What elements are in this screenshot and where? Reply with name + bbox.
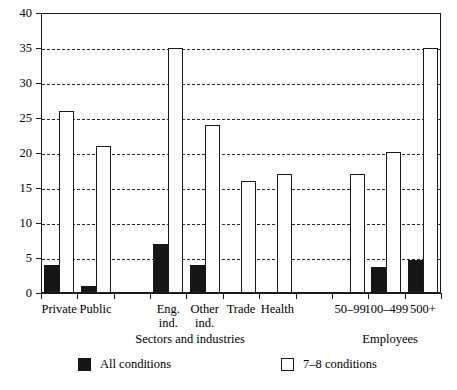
- x-axis-tick-label: 500+: [410, 302, 436, 316]
- chart-figure: 0510152025303540 PrivatePublicEng.ind.Ot…: [0, 0, 457, 390]
- x-axis-tick-label-line: ind.: [190, 316, 218, 330]
- axis-group-title: Employees: [362, 333, 418, 346]
- bars-layer: [41, 13, 441, 293]
- x-axis-tick: [114, 293, 115, 299]
- y-axis-tick: [36, 48, 41, 49]
- x-axis-tick-label-line: Health: [261, 302, 294, 316]
- bar: [59, 111, 74, 293]
- bar: [371, 267, 386, 293]
- bar: [44, 265, 59, 293]
- y-axis-tick-label: 35: [20, 42, 33, 55]
- y-axis-tick-label: 10: [20, 217, 33, 230]
- x-axis-tick: [186, 293, 187, 299]
- x-axis-tick-label-line: Private: [41, 302, 76, 316]
- y-axis-tick: [36, 188, 41, 189]
- x-axis-tick-label-line: Other: [190, 302, 218, 316]
- y-axis-tick-label: 30: [20, 77, 33, 90]
- y-axis-tick-label: 15: [20, 182, 33, 195]
- x-axis-tick-label: 100–499: [365, 302, 409, 316]
- y-axis-tick: [36, 83, 41, 84]
- legend-swatch-dark: [78, 358, 91, 371]
- x-axis-tick-label-line: 50–99: [334, 302, 365, 316]
- y-axis-tick-labels: 0510152025303540: [0, 0, 36, 390]
- x-axis-tick-label: Private: [41, 302, 76, 316]
- x-axis-tick: [41, 293, 42, 299]
- x-axis-tick: [441, 293, 442, 299]
- x-axis-tick-label-line: Public: [80, 302, 112, 316]
- chart-legend: All conditions7–8 conditions: [0, 358, 457, 378]
- bar: [423, 48, 438, 293]
- bar: [81, 286, 96, 293]
- x-axis-tick-label: Trade: [227, 302, 256, 316]
- bar: [350, 174, 365, 293]
- y-axis-tick: [36, 153, 41, 154]
- x-axis-tick: [259, 293, 260, 299]
- y-axis-tick-label: 25: [20, 112, 33, 125]
- x-axis-tick-label-line: 100–499: [365, 302, 409, 316]
- bar: [205, 125, 220, 293]
- bar: [408, 260, 423, 293]
- y-axis-line: [41, 13, 42, 293]
- x-axis-tick-label-line: Trade: [227, 302, 256, 316]
- x-axis-tick: [77, 293, 78, 299]
- bar: [153, 244, 168, 293]
- x-axis-tick-label-line: 500+: [410, 302, 436, 316]
- bar: [168, 48, 183, 293]
- x-axis-tick: [332, 293, 333, 299]
- x-axis-tick-label-line: Eng.: [157, 302, 180, 316]
- x-axis-tick-label-line: ind.: [157, 316, 180, 330]
- x-axis-tick: [223, 293, 224, 299]
- y-axis-tick-label: 40: [20, 7, 33, 20]
- legend-label: 7–8 conditions: [303, 358, 377, 371]
- x-axis-tick: [150, 293, 151, 299]
- x-axis-tick: [296, 293, 297, 299]
- y-axis-tick: [36, 118, 41, 119]
- legend-item[interactable]: 7–8 conditions: [281, 358, 377, 371]
- bar: [386, 152, 401, 293]
- x-axis-tick-label: Public: [80, 302, 112, 316]
- legend-swatch-light: [281, 358, 294, 371]
- y-axis-tick-label: 5: [26, 252, 32, 265]
- y-axis-tick-label: 0: [26, 287, 32, 300]
- x-axis-line: [41, 293, 441, 294]
- legend-label: All conditions: [100, 358, 171, 371]
- x-axis-tick-label: 50–99: [334, 302, 365, 316]
- x-axis-tick-label: Health: [261, 302, 294, 316]
- x-axis-tick-label: Otherind.: [190, 302, 218, 330]
- y-axis-tick: [36, 223, 41, 224]
- bar: [96, 146, 111, 293]
- x-axis-tick-label: Eng.ind.: [157, 302, 180, 330]
- bar: [241, 181, 256, 293]
- y-axis-tick-label: 20: [20, 147, 33, 160]
- axis-group-title: Sectors and industries: [135, 333, 245, 346]
- y-axis-tick: [36, 258, 41, 259]
- bar: [190, 265, 205, 293]
- x-axis-tick: [405, 293, 406, 299]
- bar: [277, 174, 292, 293]
- x-axis-tick: [368, 293, 369, 299]
- legend-item[interactable]: All conditions: [78, 358, 171, 371]
- y-axis-tick: [36, 13, 41, 14]
